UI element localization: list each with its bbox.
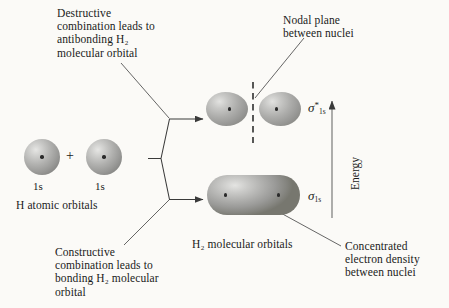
molecular-orbitals-caption: H₂ molecular orbitals [192,225,293,251]
atomic-orbital-left [24,139,60,175]
antibonding-lobe-right [259,92,301,126]
annotation-concentrated: Concentrated electron density between nu… [345,240,445,280]
atomic-orbital-right-label: 1s [95,180,105,193]
reaction-fork-arrows [148,119,203,200]
leader-line-destructive [121,63,169,118]
subscript-1s: 1s [319,107,326,116]
energy-axis-label: Energy [349,157,361,190]
annotation-nodal-plane: Nodal plane between nuclei [283,14,393,40]
bonding-orbital-symbol: σ1s [308,188,321,204]
atomic-orbital-right [86,139,122,175]
bonding-molecular-orbital [207,175,300,215]
atomic-orbital-left-label: 1s [33,180,43,193]
leader-line-constructive [124,200,169,245]
antibonding-lobe-left [206,92,248,126]
plus-sign: + [66,148,74,164]
lobe-shading [206,92,248,126]
leader-line-nodal-plane [255,38,304,98]
caption-text: H₂ molecular orbitals [192,238,293,250]
antibonding-orbital-symbol: σ*1s [308,100,326,116]
atomic-orbitals-caption: H atomic orbitals [16,199,98,212]
annotation-constructive: Constructive combination leads to bondin… [55,246,190,299]
annotation-destructive: Destructive combination leads to antibon… [57,7,187,60]
lobe-shading [259,92,301,126]
mo-diagram-figure: 1s + 1s H atomic orbitals σ*1s σ1s H₂ mo… [0,0,449,308]
nucleus-dot [102,155,105,158]
subscript-1s: 1s [314,195,321,204]
nucleus-dot [40,155,43,158]
capsule-shading [207,175,300,215]
